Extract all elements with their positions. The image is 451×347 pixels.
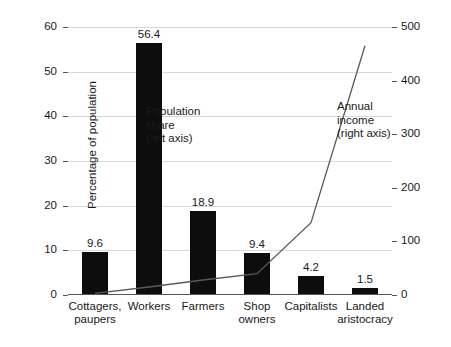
bar-value-label: 9.6 xyxy=(71,238,119,250)
y-axis-left-tickmark xyxy=(63,161,68,162)
y-axis-right-tick-label: 0 xyxy=(401,289,441,301)
y-axis-left-tickmark xyxy=(63,116,68,117)
y-axis-right-tick-label: 500 xyxy=(401,21,441,33)
y-axis-left-tick-label: 30 xyxy=(17,155,57,167)
y-axis-left-tickmark xyxy=(63,27,68,28)
y-axis-left-tick-label: 0 xyxy=(17,289,57,301)
bar-value-label: 4.2 xyxy=(287,262,335,274)
y-axis-left-tick-label: 50 xyxy=(17,66,57,78)
bar-value-label: 1.5 xyxy=(341,274,389,286)
y-axis-left-tick-label: 20 xyxy=(17,200,57,212)
y-axis-right-tick-label: 100 xyxy=(401,235,441,247)
y-axis-left-tick-label: 40 xyxy=(17,110,57,122)
y-axis-right-tick-label: 200 xyxy=(401,182,441,194)
x-axis-baseline xyxy=(68,294,392,296)
annotation-annual-income: Annual income (right axis) xyxy=(337,100,392,141)
y-axis-right-tickmark xyxy=(392,188,397,189)
y-axis-left-tickmark xyxy=(63,295,68,296)
y-axis-left-tickmark xyxy=(63,72,68,73)
y-axis-right-tickmark xyxy=(392,81,397,82)
x-axis-category-label: Landed aristocracy xyxy=(327,300,403,325)
y-axis-right-tickmark xyxy=(392,27,397,28)
y-axis-right-tickmark xyxy=(392,295,397,296)
y-axis-right-tickmark xyxy=(392,134,397,135)
annotation-population-share: Population share (left axis) xyxy=(146,105,200,146)
y-axis-left-title: Percentage of population xyxy=(86,65,98,225)
bar-value-label: 18.9 xyxy=(179,197,227,209)
bar-value-label: 9.4 xyxy=(233,239,281,251)
y-axis-left-tickmark xyxy=(63,206,68,207)
chart-figure: 0102030405060 0100200300400500 Cottagers… xyxy=(0,0,451,347)
line-series xyxy=(68,27,392,295)
y-axis-right-tickmark xyxy=(392,241,397,242)
y-axis-left-tickmark xyxy=(63,250,68,251)
y-axis-right-tick-label: 300 xyxy=(401,128,441,140)
y-axis-right-tick-label: 400 xyxy=(401,75,441,87)
bar-value-label: 56.4 xyxy=(125,29,173,41)
y-axis-left-tick-label: 10 xyxy=(17,244,57,256)
plot-area: 0102030405060 0100200300400500 Cottagers… xyxy=(68,27,392,295)
y-axis-left-tick-label: 60 xyxy=(17,21,57,33)
